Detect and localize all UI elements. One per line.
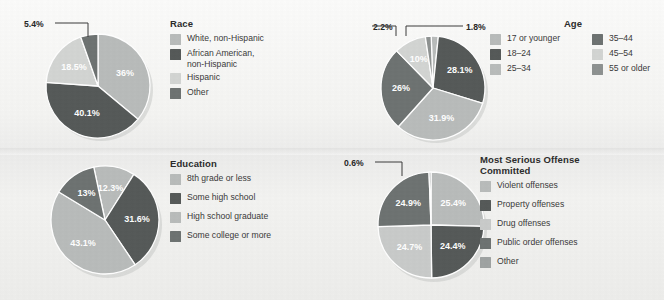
legend-item-race-3[interactable]: Other — [170, 87, 264, 99]
legend-swatch-icon — [480, 181, 491, 192]
panel-offense: 0.6% 25.4%24.4%24.7%24.9% Most Serious O… — [332, 150, 664, 300]
legend-item-race-0[interactable]: White, non-Hispanic — [170, 33, 264, 45]
legend-item-label: White, non-Hispanic — [187, 33, 264, 44]
pie-slice-value-label: 31.6% — [124, 214, 150, 224]
legend-item-label: 8th grade or less — [187, 173, 251, 184]
pie-age-svg: 28.1%31.9%26%10% — [375, 30, 495, 148]
legend-item-age-4[interactable]: 45–54 — [592, 48, 650, 60]
pie-slice-value-label: 24.9% — [396, 198, 422, 208]
pie-race-slices — [46, 34, 150, 138]
pie-slice-value-label: 18.5% — [61, 62, 87, 72]
legend-swatch-icon — [170, 88, 181, 99]
legend-item-label: Other — [497, 256, 519, 267]
legend-item-race-2[interactable]: Hispanic — [170, 72, 264, 84]
legend-item-label: Drug offenses — [497, 218, 550, 229]
legend-swatch-icon — [170, 212, 181, 223]
pie-slice-value-label: 13% — [77, 188, 95, 198]
legend-race: Race White, non-Hispanic African America… — [170, 18, 320, 102]
legend-item-label: Other — [187, 87, 209, 98]
pie-slice-value-label: 36% — [116, 68, 134, 78]
pie-slice-value-label: 24.7% — [397, 242, 423, 252]
legend-swatch-icon — [592, 64, 603, 75]
legend-item-education-1[interactable]: Some high school — [170, 192, 271, 204]
pie-offense-slices — [378, 172, 484, 278]
panel-race: 5.4% 36%40.1%18.5% Race White, non-Hispa… — [0, 0, 332, 150]
pie-race-svg: 36%40.1%18.5% — [40, 28, 160, 146]
legend-item-education-2[interactable]: High school graduate — [170, 211, 271, 223]
legend-swatch-icon — [490, 64, 501, 75]
legend-age: Age 17 or younger 18–24 25–34 — [490, 18, 664, 78]
pie-slice — [431, 225, 484, 278]
legend-swatch-icon — [170, 231, 181, 242]
pie-slice-value-label: 40.1% — [74, 108, 100, 118]
legend-item-offense-1[interactable]: Property offenses — [480, 199, 578, 211]
legend-item-label: Some high school — [187, 192, 255, 203]
legend-swatch-icon — [490, 49, 501, 60]
pie-slice-value-label: 28.1% — [447, 65, 473, 75]
legend-column: 8th grade or less Some high school High … — [170, 173, 271, 245]
legend-column: 17 or younger 18–24 25–34 — [490, 33, 570, 78]
pie-offense-svg: 25.4%24.4%24.7%24.9% — [372, 166, 494, 288]
legend-item-offense-4[interactable]: Other — [480, 256, 578, 268]
legend-column: Violent offenses Property offenses Drug … — [480, 180, 578, 271]
pie-education-svg: 12.3%31.6%43.1%13% — [45, 160, 169, 284]
pie-race: 36%40.1%18.5% — [40, 28, 160, 146]
pie-slice-value-label: 24.4% — [440, 241, 466, 251]
legend-item-label: 55 or older — [609, 63, 650, 74]
pie-slice-value-label: 10% — [410, 54, 428, 64]
legend-swatch-icon — [480, 200, 491, 211]
legend-title-age: Age — [490, 18, 656, 29]
legend-item-age-0[interactable]: 17 or younger — [490, 33, 570, 45]
legend-item-label: Property offenses — [497, 199, 564, 210]
legend-item-offense-3[interactable]: Public order offenses — [480, 237, 578, 249]
legend-swatch-icon — [170, 34, 181, 45]
legend-item-offense-0[interactable]: Violent offenses — [480, 180, 578, 192]
legend-swatch-icon — [170, 73, 181, 84]
legend-column: 35–44 45–54 55 or older — [592, 33, 650, 78]
legend-item-label: 35–44 — [609, 33, 633, 44]
legend-item-label: Some college or more — [187, 230, 271, 241]
legend-swatch-icon — [592, 34, 603, 45]
legend-column: White, non-Hispanic African American, no… — [170, 33, 264, 102]
legend-education: Education 8th grade or less Some high sc… — [170, 158, 325, 245]
pie-slice-value-label: 26% — [392, 83, 410, 93]
pie-age: 28.1%31.9%26%10% — [375, 30, 495, 148]
pie-slice-value-label: 25.4% — [440, 198, 466, 208]
legend-item-label: African American, non-Hispanic — [187, 48, 254, 69]
legend-title-offense: Most Serious Offense Committed — [480, 154, 660, 176]
legend-swatch-icon — [480, 257, 491, 268]
pie-slice-value-label: 43.1% — [70, 238, 96, 248]
legend-item-label: Hispanic — [187, 72, 220, 83]
legend-offense: Most Serious Offense Committed Violent o… — [480, 154, 660, 271]
legend-item-race-1[interactable]: African American, non-Hispanic — [170, 48, 264, 69]
legend-swatch-icon — [170, 174, 181, 185]
legend-item-label: 25–34 — [507, 63, 531, 74]
legend-title-education: Education — [170, 158, 325, 169]
legend-swatch-icon — [592, 49, 603, 60]
legend-swatch-icon — [480, 219, 491, 230]
legend-item-education-0[interactable]: 8th grade or less — [170, 173, 271, 185]
pie-offense: 25.4%24.4%24.7%24.9% — [372, 166, 494, 288]
legend-item-label: High school graduate — [187, 211, 268, 222]
pie-education: 12.3%31.6%43.1%13% — [45, 160, 169, 284]
legend-item-label: 18–24 — [507, 48, 531, 59]
legend-item-age-2[interactable]: 25–34 — [490, 63, 570, 75]
legend-item-age-3[interactable]: 35–44 — [592, 33, 650, 45]
legend-item-offense-2[interactable]: Drug offenses — [480, 218, 578, 230]
panel-education: 12.3%31.6%43.1%13% Education 8th grade o… — [0, 150, 332, 300]
pie-slice-value-label: 31.9% — [429, 113, 455, 123]
legend-item-age-5[interactable]: 55 or older — [592, 63, 650, 75]
legend-item-education-3[interactable]: Some college or more — [170, 230, 271, 242]
callout-offense-0: 0.6% — [344, 158, 364, 168]
legend-item-label: Public order offenses — [497, 237, 578, 248]
legend-item-age-1[interactable]: 18–24 — [490, 48, 570, 60]
legend-swatch-icon — [170, 193, 181, 204]
statistics-figure: 5.4% 36%40.1%18.5% Race White, non-Hispa… — [0, 0, 664, 300]
pie-slice-value-label: 12.3% — [98, 183, 124, 193]
legend-title-race: Race — [170, 18, 320, 29]
legend-swatch-icon — [480, 238, 491, 249]
panel-age: 2.2% 1.8% 28.1%31.9%26%10% Age 17 or you… — [332, 0, 664, 150]
legend-swatch-icon — [490, 34, 501, 45]
legend-swatch-icon — [170, 49, 181, 60]
legend-item-label: 45–54 — [609, 48, 633, 59]
